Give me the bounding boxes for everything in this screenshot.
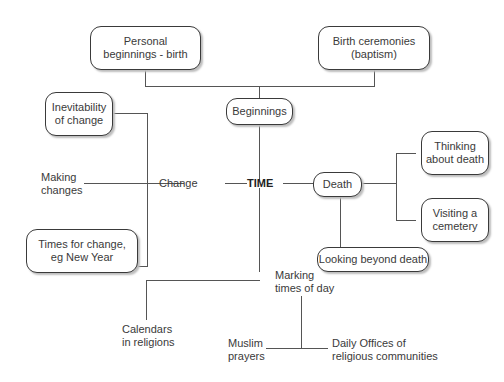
node-label: (baptism) (351, 48, 397, 61)
node-label: Muslim (228, 337, 265, 350)
connector (259, 188, 260, 272)
node-thinking-about-death: Thinking about death (421, 131, 489, 175)
connector (146, 280, 260, 281)
node-label: Thinking (434, 140, 476, 153)
connector (225, 183, 247, 184)
node-daily-offices: Daily Offices of religious communities (332, 337, 438, 363)
connector (259, 125, 260, 180)
node-label: prayers (228, 350, 265, 363)
node-label: Beginnings (232, 105, 286, 118)
connector (301, 296, 302, 348)
node-birth-ceremonies: Birth ceremonies (baptism) (318, 26, 430, 70)
connector (362, 183, 396, 184)
node-label: changes (41, 184, 83, 197)
node-label: Death (323, 178, 352, 191)
node-label: Daily Offices of (332, 337, 438, 350)
node-label: Personal (124, 35, 167, 48)
node-inevitability-of-change: Inevitability of change (45, 92, 113, 136)
node-label: about death (426, 153, 484, 166)
connector (138, 266, 148, 267)
connector (147, 113, 148, 267)
node-label: Inevitability (52, 101, 106, 114)
node-visiting-a-cemetery: Visiting a cemetery (421, 198, 489, 242)
node-label: of change (55, 114, 103, 127)
connector (396, 220, 416, 221)
node-label: in religions (122, 336, 175, 349)
node-marking-times-of-day: Marking times of day (275, 269, 334, 295)
node-label: eg New Year (51, 251, 113, 264)
node-calendars-in-religions: Calendars in religions (122, 323, 175, 349)
node-label: Visiting a (433, 207, 477, 220)
node-times-for-change: Times for change, eg New Year (26, 229, 138, 273)
time-mind-map: Personal beginnings - birth Birth ceremo… (0, 0, 504, 382)
node-label: Marking (275, 269, 334, 282)
connector (283, 183, 313, 184)
node-label: Times for change, (38, 238, 126, 251)
node-label: Making (41, 171, 83, 184)
node-time-center: TIME (247, 177, 273, 190)
node-label: times of day (275, 282, 334, 295)
connector (396, 153, 416, 154)
node-personal-beginnings: Personal beginnings - birth (90, 26, 201, 70)
connector (259, 86, 260, 98)
node-label: Calendars (122, 323, 175, 336)
connector (396, 153, 397, 221)
node-making-changes: Making changes (41, 171, 83, 197)
node-death: Death (313, 172, 362, 197)
node-label: beginnings - birth (103, 48, 187, 61)
connector (145, 70, 146, 87)
connector (146, 280, 147, 320)
node-label: Birth ceremonies (333, 35, 416, 48)
node-label: religious communities (332, 350, 438, 363)
connector (340, 197, 341, 247)
node-label: Looking beyond death (319, 253, 427, 266)
connector (374, 70, 375, 87)
node-label: cemetery (432, 220, 477, 233)
node-beginnings: Beginnings (226, 98, 293, 125)
node-muslim-prayers: Muslim prayers (228, 337, 265, 363)
connector (266, 348, 328, 349)
node-change: Change (159, 177, 198, 190)
connector (113, 113, 147, 114)
